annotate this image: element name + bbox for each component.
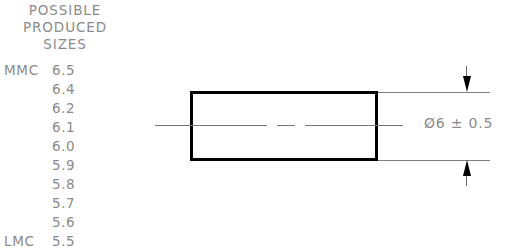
extension-line-bottom (378, 160, 490, 161)
centerline (155, 125, 403, 126)
dimension-arrowhead-up-icon (463, 160, 471, 176)
dimension-arrowhead-down-icon (463, 76, 471, 92)
extension-line-top (378, 92, 490, 93)
drawing-canvas: POSSIBLE PRODUCED SIZES MMC 6.5 6.4 6.2 … (0, 0, 519, 251)
dimension-callout-text: Ø6 ± 0.5 (424, 115, 493, 131)
part-outline-rectangle (190, 91, 378, 161)
part-drawing: Ø6 ± 0.5 (0, 0, 519, 251)
